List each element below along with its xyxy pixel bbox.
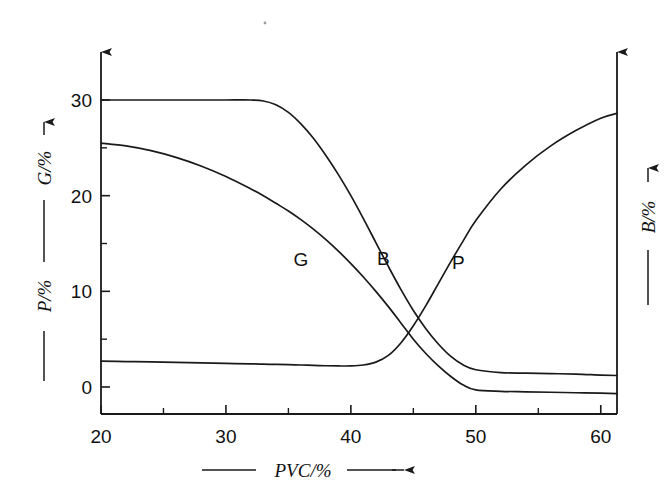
chart-svg: 2030405060 0102030 GBP PVC/% P/% G/% bbox=[0, 0, 672, 500]
y-axis-right-title: B/% bbox=[638, 201, 659, 234]
curve-g bbox=[101, 143, 617, 394]
y-axis-title-group: P/% G/% bbox=[34, 122, 55, 381]
y-tick-label: 0 bbox=[81, 377, 92, 398]
x-tick-label: 60 bbox=[590, 426, 611, 447]
paper-speck bbox=[264, 22, 267, 25]
curve-label-g: G bbox=[294, 249, 309, 270]
y-axis-right-title-group: B/% bbox=[638, 168, 659, 305]
curve-b bbox=[101, 100, 617, 376]
x-tick-label: 20 bbox=[90, 426, 111, 447]
data-curves bbox=[101, 100, 617, 394]
x-axis-title: PVC/% bbox=[274, 460, 332, 481]
y-axis-title-upper: G/% bbox=[34, 151, 55, 186]
x-axis-ticks bbox=[101, 405, 601, 414]
x-axis-title-group: PVC/% bbox=[202, 460, 404, 481]
curve-labels: GBP bbox=[294, 248, 465, 274]
y-axis-title-lower: P/% bbox=[34, 280, 55, 314]
x-tick-label: 30 bbox=[215, 426, 236, 447]
curve-p bbox=[101, 113, 617, 366]
y-axis-tick-labels: 0102030 bbox=[71, 90, 92, 398]
x-tick-label: 50 bbox=[465, 426, 486, 447]
x-tick-label: 40 bbox=[340, 426, 361, 447]
x-axis-tick-labels: 2030405060 bbox=[90, 426, 611, 447]
y-tick-label: 20 bbox=[71, 186, 92, 207]
chart-figure: 2030405060 0102030 GBP PVC/% P/% G/% bbox=[0, 0, 672, 500]
y-tick-label: 10 bbox=[71, 281, 92, 302]
curve-label-p: P bbox=[452, 252, 465, 273]
curve-label-b: B bbox=[377, 248, 390, 269]
y-tick-label: 30 bbox=[71, 90, 92, 111]
